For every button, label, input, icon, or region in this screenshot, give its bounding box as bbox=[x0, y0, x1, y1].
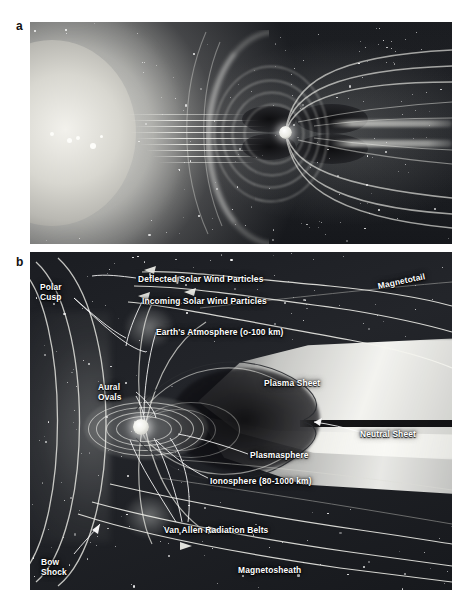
star bbox=[45, 441, 47, 443]
star bbox=[168, 543, 169, 544]
label-aural-ovals: Aural Ovals bbox=[98, 382, 122, 403]
star bbox=[73, 422, 74, 423]
star bbox=[337, 175, 338, 176]
star bbox=[145, 123, 147, 125]
star bbox=[92, 301, 93, 302]
star bbox=[365, 47, 366, 48]
star bbox=[362, 77, 363, 78]
star bbox=[402, 114, 403, 115]
star bbox=[67, 382, 68, 383]
star bbox=[175, 452, 176, 453]
star bbox=[175, 259, 176, 260]
star bbox=[307, 540, 308, 541]
star bbox=[274, 275, 275, 276]
star bbox=[372, 157, 373, 158]
star bbox=[272, 239, 274, 241]
star bbox=[395, 51, 396, 52]
star bbox=[160, 541, 161, 542]
star bbox=[426, 92, 427, 93]
star bbox=[70, 497, 72, 499]
star bbox=[300, 108, 301, 109]
star bbox=[391, 41, 392, 42]
star bbox=[97, 536, 98, 537]
earth-a bbox=[279, 126, 292, 139]
star bbox=[274, 323, 276, 325]
star bbox=[367, 203, 368, 204]
star bbox=[327, 149, 328, 150]
star bbox=[126, 514, 127, 515]
star bbox=[312, 512, 313, 513]
star bbox=[156, 65, 157, 66]
star bbox=[293, 297, 294, 298]
star bbox=[202, 541, 203, 542]
star bbox=[378, 44, 379, 45]
star bbox=[207, 44, 208, 45]
star bbox=[238, 154, 239, 155]
star bbox=[61, 482, 62, 483]
label-neutral-sheet: Neutral Sheet bbox=[360, 429, 416, 439]
star bbox=[214, 341, 215, 342]
star bbox=[291, 74, 292, 75]
star bbox=[349, 85, 351, 87]
star bbox=[359, 51, 360, 52]
star bbox=[34, 576, 35, 577]
star bbox=[186, 312, 187, 313]
star bbox=[94, 23, 95, 24]
star bbox=[301, 223, 302, 224]
label-earths-atmosphere: Earth's Atmosphere (o-100 km) bbox=[156, 327, 284, 337]
star bbox=[325, 234, 326, 235]
star bbox=[399, 551, 400, 552]
star bbox=[235, 224, 236, 225]
star bbox=[347, 574, 348, 575]
star bbox=[76, 429, 77, 430]
star bbox=[87, 558, 88, 559]
star bbox=[189, 496, 190, 497]
star bbox=[175, 98, 176, 99]
star bbox=[302, 104, 304, 106]
star bbox=[121, 516, 122, 517]
star bbox=[181, 482, 182, 483]
star bbox=[142, 62, 143, 63]
star bbox=[106, 416, 108, 418]
star bbox=[42, 482, 43, 483]
star bbox=[144, 261, 145, 262]
star bbox=[212, 218, 213, 219]
star bbox=[275, 43, 276, 44]
star bbox=[190, 160, 191, 161]
panel-a-letter: a bbox=[16, 19, 23, 33]
star bbox=[273, 255, 274, 256]
star bbox=[405, 164, 406, 165]
star bbox=[65, 29, 67, 31]
star bbox=[66, 33, 67, 34]
star bbox=[363, 566, 364, 567]
star bbox=[402, 588, 403, 589]
star bbox=[74, 533, 76, 535]
star bbox=[288, 281, 289, 282]
star bbox=[364, 228, 365, 229]
star bbox=[383, 40, 384, 41]
star bbox=[210, 260, 211, 261]
star bbox=[188, 505, 189, 506]
star bbox=[178, 169, 179, 170]
star bbox=[34, 30, 36, 32]
star bbox=[82, 308, 83, 309]
star bbox=[179, 233, 180, 234]
star bbox=[178, 120, 179, 121]
star bbox=[115, 546, 116, 547]
star bbox=[360, 41, 361, 42]
star bbox=[96, 545, 97, 546]
star bbox=[339, 194, 340, 195]
star bbox=[166, 232, 167, 233]
star bbox=[79, 510, 80, 511]
star bbox=[394, 63, 395, 64]
label-ionosphere: Ionosphere (80-1000 km) bbox=[210, 476, 312, 486]
star bbox=[363, 101, 364, 102]
star bbox=[426, 137, 427, 138]
star bbox=[432, 299, 433, 300]
star bbox=[318, 34, 319, 35]
star bbox=[171, 386, 172, 387]
star bbox=[314, 290, 315, 291]
star bbox=[63, 313, 65, 315]
label-polar-cusp: Polar Cusp bbox=[40, 282, 62, 303]
star bbox=[386, 47, 387, 48]
